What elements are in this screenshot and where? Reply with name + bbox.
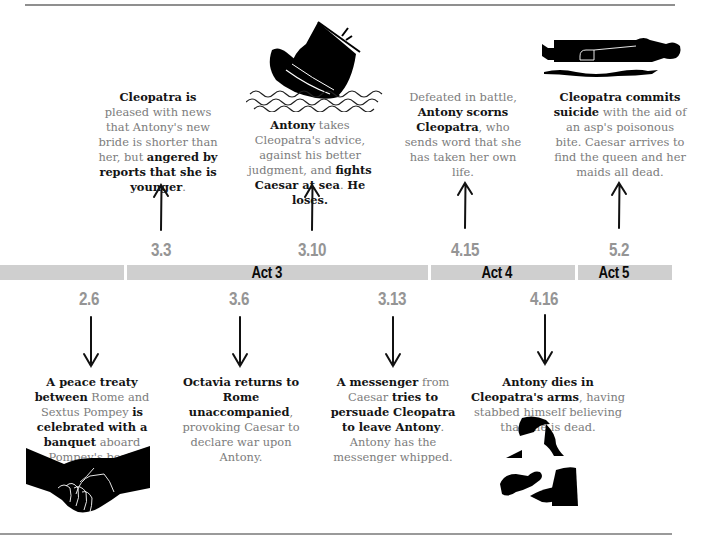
- act-5-label: Act 5: [599, 265, 646, 280]
- event-4-15-description: Defeated in battle, Antony scorns Cleopa…: [402, 90, 524, 180]
- down-arrow-icon: [81, 316, 101, 368]
- bottom-divider: [0, 533, 672, 535]
- up-arrow-icon: [609, 181, 629, 229]
- sinking-ship-icon: [246, 16, 386, 116]
- reclining-figure-with-asp-icon: [540, 36, 684, 84]
- scene-2-6: 2.6: [65, 288, 113, 310]
- scene-3-10: 3.10: [288, 239, 336, 261]
- top-divider: [25, 4, 675, 6]
- emphasis-text: Antony: [270, 118, 315, 132]
- scene-3-13: 3.13: [368, 288, 416, 310]
- act-3-label: Act 3: [252, 265, 299, 280]
- timeline-segment-act-3: Act 3: [127, 265, 428, 280]
- body-text: Defeated in battle,: [409, 90, 517, 104]
- event-3-3-description: Cleopatra is pleased with news that Anto…: [96, 90, 220, 195]
- embracing-figures-icon: [494, 414, 590, 510]
- handshake-icon: [24, 444, 152, 520]
- down-arrow-icon: [535, 314, 555, 366]
- timeline-segment-act-4: Act 4: [431, 265, 575, 280]
- scene-3-6: 3.6: [215, 288, 263, 310]
- down-arrow-icon: [230, 316, 250, 368]
- event-3-13-description: A messenger from Caesar tries to persuad…: [330, 375, 456, 465]
- scene-4-15: 4.15: [441, 239, 489, 261]
- down-arrow-icon: [383, 316, 403, 368]
- emphasis-text: Cleopatra is: [120, 90, 197, 104]
- emphasis-text: Octavia returns to Rome unaccompanied: [183, 375, 299, 419]
- act-4-label: Act 4: [482, 265, 529, 280]
- timeline-segment-act-2: [0, 265, 124, 280]
- event-5-2-description: Cleopatra commits suicide with the aid o…: [552, 90, 688, 180]
- timeline-segment-act-5: Act 5: [578, 265, 672, 280]
- event-3-10-description: Antony takes Cleopatra's advice, against…: [240, 118, 380, 208]
- scene-4-16: 4.16: [520, 288, 568, 310]
- up-arrow-icon: [455, 181, 475, 229]
- emphasis-text: A messenger: [337, 375, 419, 389]
- scene-5-2: 5.2: [595, 239, 643, 261]
- body-text: .: [182, 180, 186, 194]
- emphasis-text: Antony dies in Cleopatra's arms: [471, 375, 594, 404]
- scene-3-3: 3.3: [137, 239, 185, 261]
- event-3-6-description: Octavia returns to Rome unaccompanied, p…: [178, 375, 304, 465]
